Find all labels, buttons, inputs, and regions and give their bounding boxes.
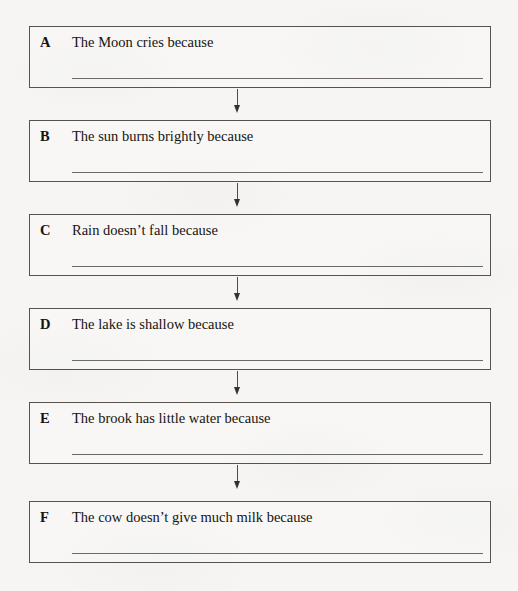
statement-letter-b: B	[40, 128, 62, 145]
arrow-head	[234, 481, 240, 489]
down-arrow-icon-e-to-f	[233, 465, 242, 490]
statement-box-a[interactable]: A The Moon cries because	[29, 26, 491, 88]
down-arrow-icon-b-to-c	[233, 183, 242, 208]
answer-line-a[interactable]	[72, 78, 483, 79]
answer-line-f[interactable]	[72, 553, 483, 554]
down-arrow-icon-d-to-e	[233, 371, 242, 396]
statement-text-e: The brook has little water because	[72, 410, 480, 427]
statement-letter-d: D	[40, 316, 62, 333]
arrow-head	[234, 105, 240, 113]
statement-box-e[interactable]: E The brook has little water because	[29, 402, 491, 464]
statement-box-b[interactable]: B The sun burns brightly because	[29, 120, 491, 182]
statement-text-a: The Moon cries because	[72, 34, 480, 51]
statement-letter-a: A	[40, 34, 62, 51]
statement-box-d[interactable]: D The lake is shallow because	[29, 308, 491, 370]
statement-letter-f: F	[40, 509, 62, 526]
arrow-head	[234, 387, 240, 395]
statement-box-c[interactable]: C Rain doesn’t fall because	[29, 214, 491, 276]
answer-line-d[interactable]	[72, 360, 483, 361]
statement-letter-e: E	[40, 410, 62, 427]
answer-line-c[interactable]	[72, 266, 483, 267]
statement-text-b: The sun burns brightly because	[72, 128, 480, 145]
arrow-head	[234, 293, 240, 301]
down-arrow-icon-a-to-b	[233, 89, 242, 114]
down-arrow-icon-c-to-d	[233, 277, 242, 302]
answer-line-b[interactable]	[72, 172, 483, 173]
statement-letter-c: C	[40, 222, 62, 239]
arrow-head	[234, 199, 240, 207]
answer-line-e[interactable]	[72, 454, 483, 455]
statement-box-f[interactable]: F The cow doesn’t give much milk because	[29, 501, 491, 563]
worksheet-page: A The Moon cries because B The sun burns…	[0, 0, 518, 591]
statement-text-c: Rain doesn’t fall because	[72, 222, 480, 239]
statement-text-d: The lake is shallow because	[72, 316, 480, 333]
statement-text-f: The cow doesn’t give much milk because	[72, 509, 480, 526]
